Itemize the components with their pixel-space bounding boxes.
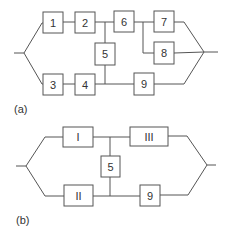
block-label: 9 xyxy=(141,78,147,90)
block-label: 4 xyxy=(82,79,88,91)
block-7: 7 xyxy=(154,11,174,32)
link-7-out xyxy=(174,22,204,52)
block-6: 6 xyxy=(114,11,134,32)
block-label: 8 xyxy=(161,47,167,59)
block-9-b: 9 xyxy=(140,185,160,206)
block-label: 5 xyxy=(102,48,108,60)
block-3: 3 xyxy=(43,74,63,95)
branch-lower-a xyxy=(24,53,43,84)
caption-a: (a) xyxy=(14,103,27,115)
block-label: 7 xyxy=(161,16,167,28)
block-5: 5 xyxy=(95,43,115,65)
block-2: 2 xyxy=(75,12,95,33)
block-8: 8 xyxy=(154,42,174,64)
link-8-out xyxy=(174,52,204,53)
block-I: I xyxy=(63,127,93,147)
block-1: 1 xyxy=(43,12,63,33)
block-label: 1 xyxy=(50,17,56,29)
caption-b: (b) xyxy=(16,214,29,226)
block-II: II xyxy=(64,185,93,206)
diagram-b: I II III 5 9 (b) xyxy=(16,127,216,226)
block-label: 5 xyxy=(107,161,113,173)
block-label: 9 xyxy=(147,190,153,202)
block-label: 2 xyxy=(82,17,88,29)
block-5-b: 5 xyxy=(101,156,120,177)
block-label: 3 xyxy=(50,79,56,91)
block-III: III xyxy=(130,127,168,146)
diagram-a: 1 2 3 4 5 6 7 8 xyxy=(14,11,218,115)
branch-upper-b xyxy=(26,137,63,166)
link-9-out-b xyxy=(160,165,207,195)
block-4: 4 xyxy=(75,74,95,95)
block-label: III xyxy=(144,131,153,143)
link-III-out xyxy=(168,136,207,165)
link-6-8 xyxy=(143,22,154,53)
block-9: 9 xyxy=(134,73,154,95)
branch-lower-b xyxy=(26,166,64,196)
reliability-block-diagrams: 1 2 3 4 5 6 7 8 xyxy=(0,0,236,233)
block-label: II xyxy=(75,190,81,202)
block-label: I xyxy=(76,131,79,143)
block-label: 6 xyxy=(121,16,127,28)
branch-upper-a xyxy=(24,23,43,53)
